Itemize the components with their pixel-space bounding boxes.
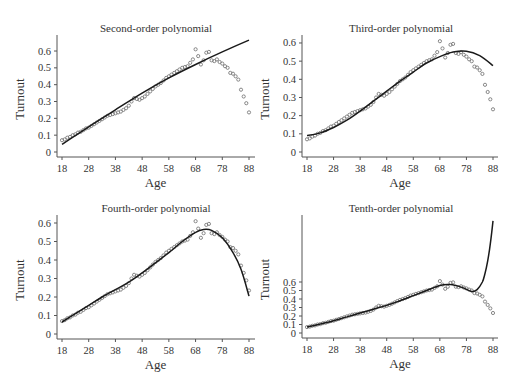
- x-tick-label: 18: [302, 163, 313, 174]
- x-tick-label: 18: [57, 345, 68, 356]
- y-tick-label: 0.6: [38, 46, 51, 57]
- x-tick-label: 28: [328, 163, 339, 174]
- x-tick-label: 58: [408, 344, 419, 355]
- x-tick-label: 78: [217, 345, 228, 356]
- y-tick-label: 0.4: [38, 255, 52, 266]
- data-point: [125, 107, 128, 110]
- y-tick-label: 0.3: [283, 92, 296, 103]
- data-point: [199, 63, 202, 66]
- y-tick-label: 0.1: [283, 128, 296, 139]
- x-tick-label: 38: [355, 344, 366, 355]
- data-point: [470, 60, 473, 63]
- data-point: [486, 303, 489, 306]
- x-axis-label: Age: [389, 356, 411, 371]
- data-point: [247, 111, 250, 114]
- x-axis-label: Age: [145, 175, 167, 190]
- data-point: [491, 108, 494, 111]
- x-tick-label: 88: [488, 344, 499, 355]
- y-tick-label: 0.2: [38, 292, 51, 303]
- polynomial-fit-figure: Second-order polynomial 00.10.20.30.40.5…: [0, 0, 520, 390]
- data-point: [245, 102, 248, 105]
- data-point: [237, 253, 240, 256]
- x-tick-label: 78: [461, 344, 472, 355]
- x-tick-label: 38: [355, 163, 366, 174]
- y-tick-label: 0.5: [283, 56, 296, 67]
- x-tick-label: 68: [190, 163, 201, 174]
- data-point: [221, 62, 224, 65]
- y-tick-label: 0.1: [38, 130, 51, 141]
- x-tick-label: 38: [110, 163, 121, 174]
- x-tick-label: 88: [488, 163, 499, 174]
- y-axis-label: Turnout: [257, 78, 272, 120]
- x-tick-label: 78: [217, 163, 228, 174]
- data-point: [237, 78, 240, 81]
- y-tick-label: 0.5: [38, 62, 51, 73]
- data-point: [478, 69, 481, 72]
- data-point: [491, 311, 494, 314]
- data-point: [481, 72, 484, 75]
- y-tick-label: 0.5: [38, 236, 51, 247]
- data-point: [234, 249, 237, 252]
- y-tick-label: 0.6: [283, 277, 296, 288]
- y-axis-label: Turnout: [12, 259, 27, 301]
- x-axis-label: Age: [145, 357, 167, 372]
- panel-third-order: Third-order polynomial 00.10.20.30.40.50…: [257, 22, 498, 190]
- y-tick-label: 0.6: [283, 37, 296, 48]
- data-point: [446, 285, 449, 288]
- x-tick-label: 48: [381, 163, 392, 174]
- data-point: [486, 90, 489, 93]
- data-point: [199, 236, 202, 239]
- panel-title: Second-order polynomial: [100, 22, 212, 34]
- x-tick-label: 48: [381, 344, 392, 355]
- data-point: [388, 90, 391, 93]
- data-point: [444, 56, 447, 59]
- x-tick-label: 18: [57, 163, 68, 174]
- y-tick-label: 0.6: [38, 218, 51, 229]
- x-tick-label: 48: [137, 163, 148, 174]
- panel-title: Tenth-order polynomial: [349, 202, 454, 214]
- data-point: [234, 75, 237, 78]
- y-axis-label: Turnout: [12, 78, 27, 120]
- panel-second-order: Second-order polynomial 00.10.20.30.40.5…: [12, 22, 255, 190]
- y-tick-label: 0.4: [38, 79, 52, 90]
- data-point: [483, 83, 486, 86]
- panel-tenth-order: Tenth-order polynomial 00.10.20.30.40.50…: [257, 202, 498, 371]
- panel-title: Third-order polynomial: [349, 22, 453, 34]
- y-tick-label: 0.3: [38, 96, 51, 107]
- data-point: [438, 280, 441, 283]
- x-tick-label: 28: [83, 163, 94, 174]
- data-point: [465, 55, 468, 58]
- data-point: [483, 300, 486, 303]
- data-point: [194, 220, 197, 223]
- data-point: [481, 295, 484, 298]
- x-tick-label: 38: [110, 345, 121, 356]
- observed-points: [60, 48, 250, 142]
- x-tick-label: 68: [435, 163, 446, 174]
- x-tick-label: 68: [435, 344, 446, 355]
- x-tick-label: 28: [328, 344, 339, 355]
- y-tick-label: 0: [46, 147, 51, 158]
- y-tick-label: 0.1: [38, 310, 51, 321]
- data-point: [226, 66, 229, 69]
- data-point: [197, 55, 200, 58]
- x-axis-label: Age: [389, 175, 411, 190]
- data-point: [215, 58, 218, 61]
- data-point: [189, 61, 192, 64]
- data-point: [202, 232, 205, 235]
- data-point: [436, 51, 439, 54]
- y-tick-label: 0.2: [283, 110, 296, 121]
- data-point: [489, 98, 492, 101]
- x-tick-label: 88: [244, 345, 255, 356]
- y-tick-label: 0.2: [38, 113, 51, 124]
- data-point: [191, 58, 194, 61]
- data-point: [239, 88, 242, 91]
- observed-points: [305, 40, 494, 141]
- y-tick-label: 0.3: [38, 273, 51, 284]
- data-point: [143, 95, 146, 98]
- y-tick-label: 0.4: [283, 74, 297, 85]
- y-axis-label: Turnout: [257, 258, 272, 300]
- data-point: [146, 92, 149, 95]
- y-tick-label: 0: [46, 329, 51, 340]
- x-tick-label: 28: [83, 345, 94, 356]
- fit-curve: [307, 221, 493, 327]
